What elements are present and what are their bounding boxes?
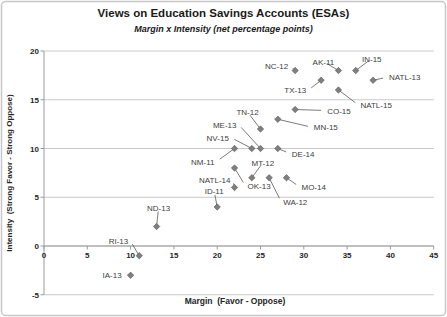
- scatter-chart: 20151050-5051015202530354045NC-12AK-11IN…: [0, 0, 447, 317]
- chart-title: Views on Education Savings Accounts (ESA…: [0, 7, 447, 19]
- data-point-NATL-14: [231, 184, 237, 190]
- x-tick-label: 30: [299, 251, 308, 260]
- data-point-IN-15: [353, 67, 359, 73]
- callout-line-WA-12: [269, 178, 279, 198]
- x-tick-label: 35: [343, 251, 352, 260]
- data-point-TN-12: [257, 126, 263, 132]
- callout-line-NV-15: [234, 139, 251, 148]
- data-point-TX-13: [318, 77, 324, 83]
- point-label-TX-13: TX-13: [284, 86, 306, 95]
- callout-line-MN-15: [278, 119, 308, 126]
- data-point-NM-11: [231, 145, 237, 151]
- callout-line-NATL-15: [338, 90, 355, 103]
- point-label-NM-11: NM-11: [191, 158, 215, 167]
- point-label-ND-13: ND-13: [147, 204, 171, 213]
- data-point-NATL-13: [370, 77, 376, 83]
- point-label-WA-12: WA-12: [283, 198, 308, 207]
- plot-area: 20151050-5051015202530354045NC-12AK-11IN…: [0, 0, 447, 317]
- chart-subtitle: Margin x Intensity (net percentage point…: [0, 24, 447, 34]
- data-point-WA-12: [266, 175, 272, 181]
- point-label-IA-13: IA-13: [102, 271, 122, 280]
- callout-line-CO-15: [295, 110, 321, 111]
- chart-border: [2, 2, 446, 316]
- point-label-NATL-13: NATL-13: [389, 73, 421, 82]
- data-point-MT-12: [249, 175, 255, 181]
- y-tick-label: 10: [30, 145, 39, 154]
- data-point-NC-12: [292, 67, 298, 73]
- callout-line-NM-11: [220, 149, 235, 160]
- x-tick-label: 10: [126, 251, 135, 260]
- point-label-MO-14: MO-14: [301, 183, 326, 192]
- point-label-CO-15: CO-15: [327, 107, 351, 116]
- x-tick-label: 40: [386, 251, 395, 260]
- x-tick-label: 15: [169, 251, 178, 260]
- data-point-NV-15: [249, 145, 255, 151]
- y-axis-title: Intensity (Strong Favor - Strong Oppose): [5, 73, 17, 273]
- point-label-NATL-15: NATL-15: [360, 101, 392, 110]
- y-tick-label: 20: [30, 47, 39, 56]
- data-point-ID-11: [214, 204, 220, 210]
- data-point-AK-11: [335, 67, 341, 73]
- data-point-MN-15: [275, 116, 281, 122]
- x-tick-label: 0: [42, 251, 47, 260]
- y-tick-label: 0: [35, 242, 40, 251]
- x-tick-label: 25: [256, 251, 265, 260]
- point-label-DE-14: DE-14: [292, 150, 315, 159]
- data-point-IA-13: [127, 272, 133, 278]
- data-point-MO-14: [283, 175, 289, 181]
- point-label-NATL-14: NATL-14: [199, 176, 231, 185]
- y-tick-label: 15: [30, 96, 39, 105]
- callout-line-ME-13: [241, 127, 260, 148]
- data-point-CO-15: [292, 106, 298, 112]
- point-label-NV-15: NV-15: [207, 134, 230, 143]
- point-label-MN-15: MN-15: [314, 123, 339, 132]
- x-tick-label: 45: [429, 251, 438, 260]
- point-label-NC-12: NC-12: [265, 62, 289, 71]
- point-label-MT-12: MT-12: [252, 159, 275, 168]
- data-point-OK-13: [231, 165, 237, 171]
- data-point-NATL-15: [335, 87, 341, 93]
- callout-line-TN-12: [250, 115, 261, 129]
- data-point-RI-13: [136, 253, 142, 259]
- point-label-RI-13: RI-13: [109, 237, 129, 246]
- data-point-DE-14: [275, 145, 281, 151]
- point-label-IN-15: IN-15: [362, 55, 382, 64]
- point-label-ID-11: ID-11: [205, 187, 225, 196]
- point-label-AK-11: AK-11: [313, 58, 335, 67]
- point-label-OK-13: OK-13: [248, 182, 272, 191]
- x-axis-title: Margin (Favor - Oppose): [30, 296, 440, 306]
- point-label-TN-12: TN-12: [236, 108, 259, 117]
- y-tick-label: 5: [35, 193, 40, 202]
- point-label-ME-13: ME-13: [213, 121, 237, 130]
- data-point-ND-13: [153, 223, 159, 229]
- x-tick-label: 20: [213, 251, 222, 260]
- x-tick-label: 5: [85, 251, 90, 260]
